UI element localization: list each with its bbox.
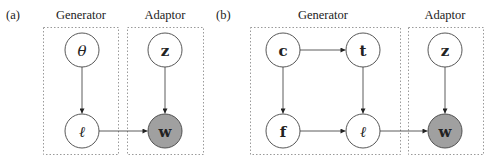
node-symbol: ℓ [360,123,366,141]
graphical-model-diagram: (a) Generator Adaptor θℓzw (b) Generator… [0,0,503,163]
panel-b-tag: (b) [216,8,231,22]
node-theta: θ [65,33,99,67]
node-z: z [148,33,182,67]
panel-b-generator-label: Generator [298,8,349,22]
node-symbol: w [438,123,453,141]
node-ell: ℓ [65,114,99,148]
node-ell: ℓ [346,114,380,148]
node-w: w [148,114,182,148]
node-symbol: c [278,42,287,60]
node-symbol: t [360,42,367,60]
panel-b-adaptor-label: Adaptor [425,8,467,22]
node-symbol: z [161,42,170,60]
panel-a-tag: (a) [6,8,20,22]
node-w: w [428,114,462,148]
panel-b: (b) Generator Adaptor ctfℓzw [216,8,484,155]
node-symbol: θ [77,42,86,60]
node-t: t [346,33,380,67]
node-f: f [266,114,300,148]
node-c: c [266,33,300,67]
panel-a-adaptor-label: Adaptor [145,8,187,22]
node-symbol: z [441,42,450,60]
panel-b-nodes: ctfℓzw [266,33,462,148]
panel-a-generator-label: Generator [56,8,107,22]
node-z: z [428,33,462,67]
node-symbol: ℓ [79,123,85,141]
node-symbol: w [158,123,173,141]
panel-a: (a) Generator Adaptor θℓzw [6,8,204,155]
